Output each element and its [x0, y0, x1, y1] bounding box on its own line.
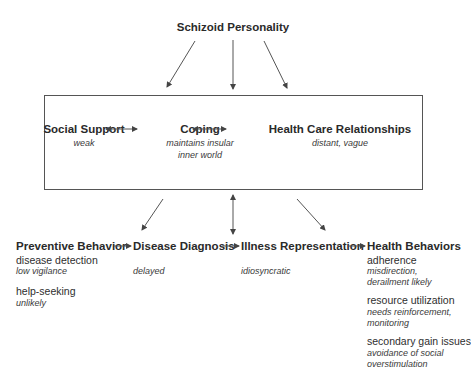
arrow-down-right-icon — [297, 199, 325, 230]
arrow-down-left-icon — [167, 41, 195, 87]
arrow-down-right-icon — [264, 41, 287, 88]
arrow-down-left-icon — [142, 199, 163, 230]
